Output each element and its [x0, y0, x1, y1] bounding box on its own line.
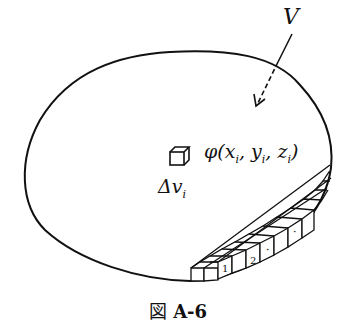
volume-element-cube-icon: [170, 147, 189, 165]
arg-x-sub: i: [235, 153, 239, 166]
function-label: φ(xi, yi, zi): [204, 140, 298, 166]
arg-z: z: [277, 140, 287, 162]
figure-a6: 1 2 · · V φ(xi, yi, zi) Δvi 図 A-6: [0, 0, 356, 332]
arg-y-sub: i: [262, 153, 266, 166]
figure-caption: 図 A-6: [0, 297, 356, 323]
volume-element-label: Δvi: [158, 175, 186, 201]
volume-element-sub: i: [182, 188, 186, 201]
caption-id: A-6: [173, 301, 207, 322]
diagram-canvas: 1 2 · ·: [0, 0, 356, 332]
arg-x: x: [225, 140, 236, 162]
brick-strip: [191, 165, 331, 281]
region-label-v: V: [283, 4, 299, 29]
pointer-arrow-icon: [254, 34, 292, 106]
brick-label-dot-2: ·: [293, 226, 297, 239]
arg-z-sub: i: [287, 153, 291, 166]
brick-label-2: 2: [250, 255, 256, 266]
caption-prefix: 図: [149, 301, 167, 322]
function-name: φ: [204, 140, 217, 162]
brick-label-dot-1: ·: [266, 244, 270, 257]
volume-element-symbol: Δv: [158, 175, 182, 197]
brick-label-1: 1: [222, 263, 228, 274]
arg-y: y: [251, 140, 262, 162]
